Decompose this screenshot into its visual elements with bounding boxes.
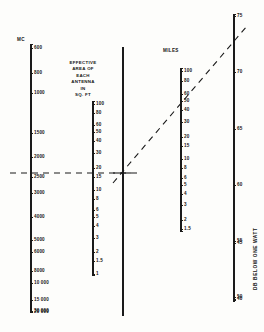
area-tick-label: 8 xyxy=(96,197,99,202)
miles-tick xyxy=(180,159,183,160)
area-tick xyxy=(92,226,95,227)
frequency-tick xyxy=(30,177,33,178)
miles-scale-title: MILES xyxy=(163,49,179,54)
miles-tick xyxy=(180,220,183,221)
area-tick xyxy=(92,125,95,126)
frequency-tick xyxy=(30,240,33,241)
miles-tick xyxy=(180,178,183,179)
area-tick-label: 1 xyxy=(96,272,99,277)
db-axis-bottom-cap xyxy=(233,300,236,301)
area-tick xyxy=(92,261,95,262)
miles-tick xyxy=(180,122,183,123)
miles-tick xyxy=(180,146,183,147)
miles-tick xyxy=(180,229,183,230)
area-tick xyxy=(92,132,95,133)
area-tick xyxy=(92,252,95,253)
area-scale-title: EFFECTIVEAREA OFEACHANTENNAINSQ. FT xyxy=(52,60,114,98)
miles-tick-label: 100 xyxy=(184,69,192,74)
area-tick-label: 15 xyxy=(96,175,101,180)
area-tick-label: 2 xyxy=(96,250,99,255)
frequency-tick-label: 2500 xyxy=(34,175,45,180)
db-tick-label: 70 xyxy=(237,70,242,75)
area-tick-label: 40 xyxy=(96,139,101,144)
db-tick-label: 45 xyxy=(237,241,242,246)
frequency-tick xyxy=(30,283,33,284)
nomogram-figure: MC 6008001000150020002500300040005000600… xyxy=(0,0,264,332)
frequency-tick xyxy=(30,217,33,218)
frequency-tick-label: 800 xyxy=(34,71,42,76)
frequency-tick-label: 3000 xyxy=(34,191,45,196)
miles-tick xyxy=(180,81,183,82)
frequency-tick-label: 6000 xyxy=(34,250,45,255)
miles-axis-bottom-cap xyxy=(180,231,183,232)
miles-tick-label: 40 xyxy=(184,108,189,113)
area-axis-top-cap xyxy=(92,101,95,102)
miles-tick xyxy=(180,71,183,72)
area-tick-label: 3 xyxy=(96,236,99,241)
miles-tick-label: 3 xyxy=(184,203,187,208)
db-tick xyxy=(233,241,236,242)
area-tick xyxy=(92,199,95,200)
miles-tick-label: 2 xyxy=(184,218,187,223)
db-tick xyxy=(233,185,236,186)
frequency-tick xyxy=(30,157,33,158)
frequency-tick xyxy=(30,300,33,301)
area-axis-bottom-cap xyxy=(92,275,95,276)
frequency-tick-label: 30 000 xyxy=(34,309,49,314)
miles-tick-label: 30 xyxy=(184,120,189,125)
miles-tick-label: 4 xyxy=(184,192,187,197)
area-tick-label: 60 xyxy=(96,123,101,128)
frequency-tick-label: 8000 xyxy=(34,269,45,274)
frequency-tick xyxy=(30,73,33,74)
area-tick-label: 5 xyxy=(96,215,99,220)
db-tick xyxy=(233,129,236,130)
frequency-tick-label: 1500 xyxy=(34,131,45,136)
area-tick xyxy=(92,190,95,191)
frequency-tick xyxy=(30,48,33,49)
db-tick xyxy=(233,299,236,300)
frequency-tick-label: 5000 xyxy=(34,238,45,243)
miles-tick-label: 60 xyxy=(184,92,189,97)
area-tick-label: 30 xyxy=(96,151,101,156)
area-tick xyxy=(92,217,95,218)
db-tick-label: 75 xyxy=(237,14,242,19)
area-tick-label: 1.5 xyxy=(96,259,103,264)
frequency-tick-label: 600 xyxy=(34,46,42,51)
area-tick xyxy=(92,210,95,211)
area-tick xyxy=(92,238,95,239)
area-tick xyxy=(92,177,95,178)
area-tick-label: 100 xyxy=(96,102,104,107)
db-tick-label: 40 xyxy=(237,297,242,302)
miles-tick xyxy=(180,205,183,206)
pivot-line xyxy=(122,47,124,316)
miles-tick-label: 8 xyxy=(184,166,187,171)
area-tick-label: 50 xyxy=(96,130,101,135)
miles-tick-label: 50 xyxy=(184,99,189,104)
miles-axis-line xyxy=(180,68,182,232)
miles-tick xyxy=(180,101,183,102)
frequency-scale-title: MC xyxy=(17,38,25,43)
frequency-tick-label: 10 000 xyxy=(34,281,49,286)
area-tick xyxy=(92,113,95,114)
miles-tick xyxy=(180,185,183,186)
area-tick-label: 6 xyxy=(96,208,99,213)
db-tick-label: 65 xyxy=(237,127,242,132)
frequency-tick xyxy=(30,193,33,194)
frequency-tick-label: 15 000 xyxy=(34,298,49,303)
miles-tick xyxy=(180,137,183,138)
miles-tick-label: 10 xyxy=(184,157,189,162)
miles-tick-label: 5 xyxy=(184,183,187,188)
db-tick xyxy=(233,297,236,298)
db-tick xyxy=(233,243,236,244)
area-scale-title-line: SQ. FT xyxy=(52,92,114,98)
db-scale-title: DB BELOW ONE WATT xyxy=(253,227,258,290)
area-tick xyxy=(92,104,95,105)
frequency-tick-label: 2000 xyxy=(34,155,45,160)
miles-axis-top-cap xyxy=(180,68,183,69)
frequency-tick-label: 1000 xyxy=(34,91,45,96)
miles-tick-label: 80 xyxy=(184,79,189,84)
frequency-axis-top-cap xyxy=(30,44,33,45)
db-tick-label: 60 xyxy=(237,183,242,188)
area-tick xyxy=(92,153,95,154)
frequency-tick xyxy=(30,93,33,94)
